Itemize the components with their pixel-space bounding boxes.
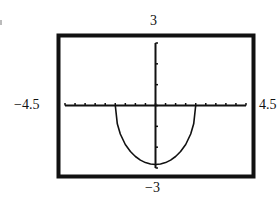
ymin-label: −3 xyxy=(145,181,160,195)
graph-window xyxy=(0,0,279,197)
xmax-label: 4.5 xyxy=(259,98,277,112)
axes xyxy=(65,43,246,168)
ymax-label: 3 xyxy=(150,14,157,28)
xmin-label: −4.5 xyxy=(14,98,39,112)
